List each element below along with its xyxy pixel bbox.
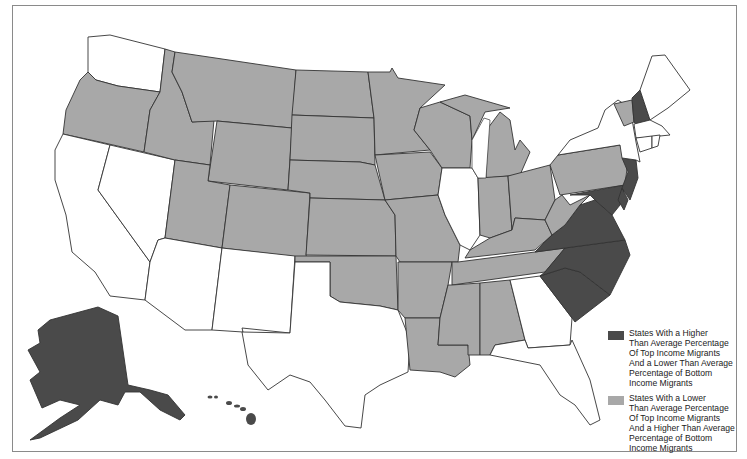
state-colorado bbox=[222, 185, 310, 258]
state-hawaii bbox=[208, 396, 257, 426]
state-montana bbox=[172, 52, 296, 128]
state-alaska bbox=[28, 307, 185, 440]
legend-item-higher-top-income: States With a Higher Than Average Percen… bbox=[608, 328, 738, 389]
state-maine bbox=[640, 55, 690, 120]
legend-label: States With a Higher Than Average Percen… bbox=[629, 328, 733, 389]
legend-swatch-light bbox=[608, 396, 624, 405]
state-massachusetts bbox=[634, 120, 670, 138]
legend-swatch-dark bbox=[608, 331, 624, 340]
state-new-mexico bbox=[212, 248, 295, 333]
state-indiana bbox=[478, 176, 512, 238]
state-connecticut bbox=[636, 136, 652, 152]
legend-label: States With a Lower Than Average Percent… bbox=[629, 393, 735, 454]
state-florida bbox=[490, 340, 600, 425]
state-kansas bbox=[306, 198, 396, 256]
state-north-dakota bbox=[292, 70, 374, 118]
legend-item-lower-top-income: States With a Lower Than Average Percent… bbox=[608, 393, 738, 454]
state-rhode-island bbox=[652, 135, 660, 148]
state-wyoming bbox=[208, 121, 292, 190]
state-south-dakota bbox=[290, 115, 375, 165]
state-arizona bbox=[145, 238, 222, 330]
legend: States With a Higher Than Average Percen… bbox=[608, 328, 738, 457]
state-iowa bbox=[375, 152, 442, 200]
